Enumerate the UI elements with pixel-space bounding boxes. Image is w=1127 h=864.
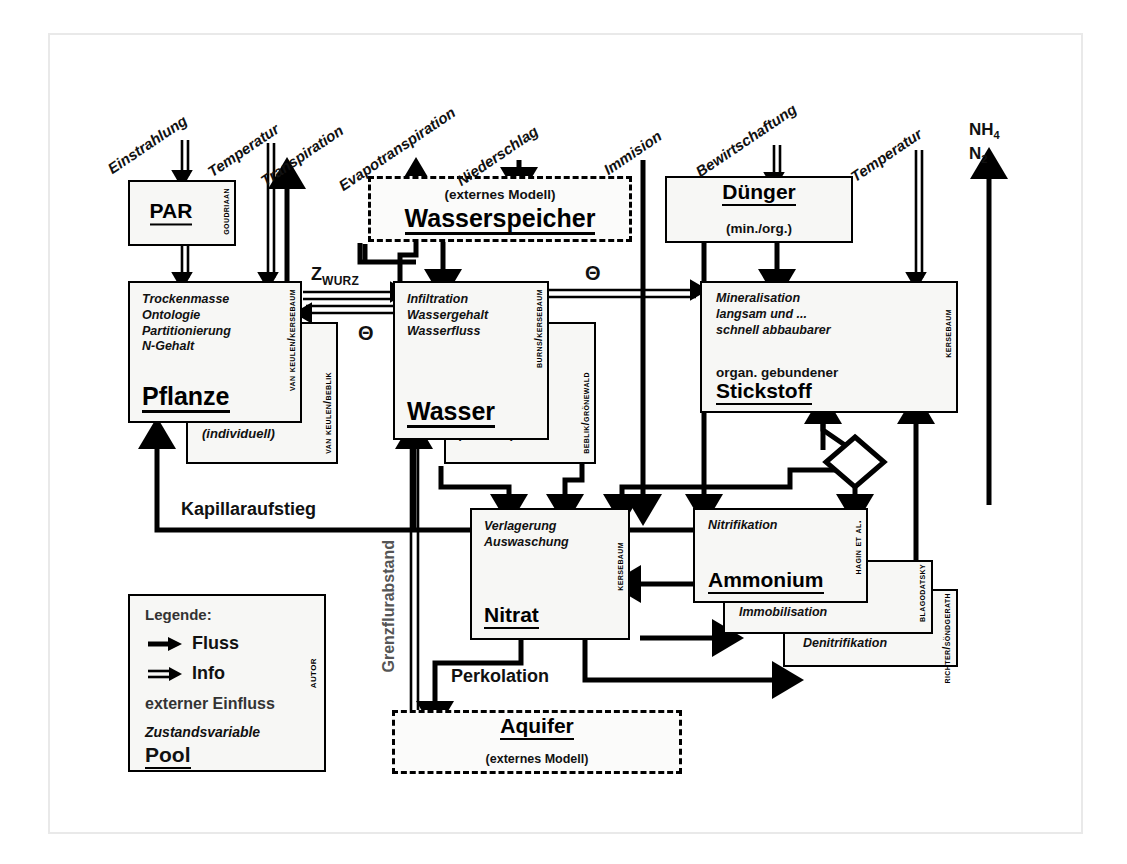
par-pool-label: PAR <box>150 200 193 225</box>
wasser-pool-label: Wasser <box>407 398 495 428</box>
immobilisation-author-tag: Blagodatsky <box>915 564 927 622</box>
gas-nh4-main: NH <box>969 120 994 139</box>
pflanze-var-1: Ontologie <box>142 308 231 324</box>
gas-n2-main: N <box>969 144 981 163</box>
stickstoff-pool-label: Stickstoff <box>716 380 812 405</box>
node-pflanze[interactable]: Trockenmasse Ontologie Partitionierung N… <box>128 281 302 423</box>
gas-n2-sub: 2 <box>981 154 987 166</box>
gas-output-label: NH4 N2 <box>969 119 1000 167</box>
node-par[interactable]: PAR Goudriaan <box>128 180 236 246</box>
legend-item-fluss: Fluss <box>192 633 239 654</box>
immobilisation-label: Immobilisation <box>739 605 827 621</box>
legend-item-externer-einfluss: externer Einfluss <box>145 695 275 713</box>
pflanze-var-3: N-Gehalt <box>142 339 231 355</box>
edge-label-theta-wasser: Θ <box>358 322 374 345</box>
node-aquifer[interactable]: Aquifer (externes Modell) <box>392 710 682 774</box>
stickstoff-var-2: schnell abbaubarer <box>716 323 831 339</box>
stickstoff-var-0: Mineralisation <box>716 291 831 307</box>
stickstoff-prefix: organ. gebundener <box>716 365 838 380</box>
node-wasserspeicher[interactable]: (externes Modell) Wasserspeicher <box>368 176 632 242</box>
legend-solid-arrow-icon <box>146 634 186 654</box>
pflanze-back-label: (individuell) <box>202 426 275 441</box>
wasser-var-2: Wasserfluss <box>407 324 488 340</box>
stickstoff-var-1: langsam und ... <box>716 307 831 323</box>
diagram-canvas: PAR Goudriaan (individuell) van Keulen/B… <box>0 0 1127 864</box>
par-author-tag: Goudriaan <box>219 188 231 235</box>
duenger-note: (min./org.) <box>726 221 792 236</box>
duenger-pool-label: Dünger <box>722 181 796 206</box>
edge-label-grenzflurabstand: Grenzflurabstand <box>380 540 398 672</box>
ammonium-pool-label: Ammonium <box>708 569 824 594</box>
aquifer-note: (externes Modell) <box>486 752 589 766</box>
aquifer-pool-label: Aquifer <box>500 715 574 740</box>
wasser-var-1: Wassergehalt <box>407 308 488 324</box>
legend-double-arrow-icon <box>146 664 186 684</box>
ammonium-author-tag: Hagin et al. <box>851 520 863 574</box>
legend-item-pool: Pool <box>145 744 191 769</box>
node-stickstoff[interactable]: Mineralisation langsam und ... schnell a… <box>700 281 958 413</box>
wasserspeicher-note: (externes Modell) <box>444 187 555 202</box>
wasser-back-author-tag: Beblik/Grönewald <box>579 372 591 454</box>
pflanze-author-tag: van Keulen/Kersebaum <box>285 289 297 391</box>
pflanze-var-2: Partitionierung <box>142 324 231 340</box>
node-duenger[interactable]: Dünger (min./org.) <box>665 176 853 243</box>
legend-author-tag: Autor <box>305 658 319 688</box>
legend-heading: Legende: <box>145 606 212 623</box>
node-ammonium[interactable]: Nitrifikation Ammonium Hagin et al. <box>693 508 868 603</box>
stickstoff-author-tag: Kersebaum <box>941 309 953 358</box>
nitrat-author-tag: Kersebaum <box>613 542 625 591</box>
zwurz-sub: WURZ <box>322 274 359 288</box>
nitrat-var-0: Verlagerung <box>484 519 569 535</box>
pflanze-back-author-tag: van Keulen/Beblik <box>321 372 333 454</box>
wasser-var-0: Infiltration <box>407 292 488 308</box>
wasserspeicher-pool-label: Wasserspeicher <box>405 205 596 235</box>
pflanze-pool-label: Pflanze <box>142 383 230 413</box>
zwurz-main: Z <box>311 264 322 284</box>
edge-label-theta-stickstoff: Θ <box>585 262 601 285</box>
gas-nh4-sub: 4 <box>994 129 1000 141</box>
edge-label-perkolation: Perkolation <box>451 666 549 687</box>
denitrifikation-label: Denitrifikation <box>803 636 887 652</box>
node-wasser[interactable]: Infiltration Wassergehalt Wasserfluss Wa… <box>393 281 549 440</box>
nitrat-var-1: Auswaschung <box>484 535 569 551</box>
ammonium-var-0: Nitrifikation <box>708 518 777 534</box>
edge-label-kapillaraufstieg: Kapillaraufstieg <box>181 499 316 520</box>
denitrifikation-author-tag: Richter/Söndgerath <box>940 593 952 684</box>
wasser-author-tag: Burns/Kersebaum <box>532 289 544 368</box>
legend-item-zustandsvariable: Zustandsvariable <box>145 724 260 740</box>
nitrat-pool-label: Nitrat <box>484 604 539 629</box>
edge-label-zwurz: ZWURZ <box>311 264 359 288</box>
pflanze-var-0: Trockenmasse <box>142 292 231 308</box>
legend-box[interactable]: Legende: Fluss Info externer Einfluss Zu… <box>128 594 326 772</box>
legend-item-info: Info <box>192 663 225 684</box>
node-nitrat[interactable]: Verlagerung Auswaschung Nitrat Kersebaum <box>470 508 630 640</box>
